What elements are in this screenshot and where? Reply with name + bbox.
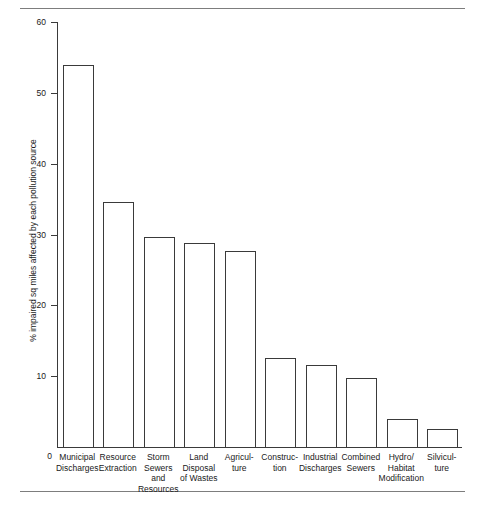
bar-series [57, 22, 462, 447]
x-category-label: Silvicul- ture [418, 452, 467, 473]
bar [265, 358, 296, 447]
y-tick-label: 20 [6, 301, 46, 310]
bar [63, 65, 94, 448]
y-tick-label: 40 [6, 160, 46, 169]
x-axis-category-labels: Municipal DischargesResource ExtractionS… [57, 452, 469, 504]
bar [346, 378, 377, 447]
bar-chart: % impaired sq miles affected by each pol… [0, 0, 481, 507]
bar [103, 202, 134, 447]
bar [184, 243, 215, 447]
figure-page: % impaired sq miles affected by each pol… [0, 0, 481, 507]
y-tick-label: 10 [6, 372, 46, 381]
bar [427, 429, 458, 447]
y-tick-label: 30 [6, 231, 46, 240]
bar [225, 251, 256, 447]
x-axis-line [57, 447, 462, 448]
bar [306, 365, 337, 447]
y-tick-label-zero: 0 [40, 452, 52, 461]
bar [144, 237, 175, 447]
bar [387, 419, 418, 447]
y-axis-label: % impaired sq miles affected by each pol… [29, 76, 38, 406]
y-tick-label: 60 [6, 18, 46, 27]
y-tick-label: 50 [6, 89, 46, 98]
